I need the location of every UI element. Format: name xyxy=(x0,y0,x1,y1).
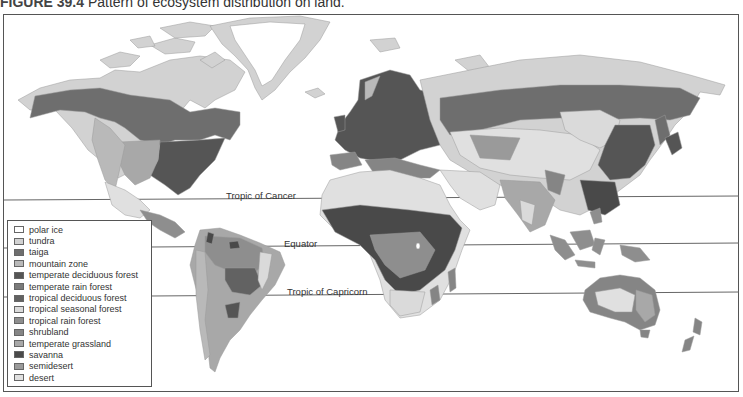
north-america xyxy=(18,22,245,238)
madagascar xyxy=(448,268,456,292)
legend-item: temperate rain forest xyxy=(14,281,151,292)
legend-label: tropical deciduous forest xyxy=(29,293,127,303)
equator-label: Equator xyxy=(284,238,317,249)
legend-item: temperate grassland xyxy=(14,338,151,349)
legend-item: savanna xyxy=(14,349,151,360)
legend-label: savanna xyxy=(29,350,63,360)
iceland xyxy=(305,88,325,98)
legend-item: taiga xyxy=(14,247,151,258)
legend-swatch xyxy=(14,340,24,347)
biome-legend: polar icetundrataigamountain zonetempera… xyxy=(7,220,152,387)
legend-item: tropical deciduous forest xyxy=(14,292,151,303)
south-america xyxy=(190,228,285,372)
tropic-of-cancer-label: Tropic of Cancer xyxy=(226,190,296,201)
legend-swatch xyxy=(14,260,24,267)
legend-swatch xyxy=(14,295,24,302)
legend-swatch xyxy=(14,238,24,245)
legend-swatch xyxy=(14,283,24,290)
legend-item: polar ice xyxy=(14,224,151,235)
legend-label: tropical seasonal forest xyxy=(29,304,122,314)
legend-label: temperate deciduous forest xyxy=(29,270,138,280)
legend-item: mountain zone xyxy=(14,258,151,269)
legend-swatch xyxy=(14,249,24,256)
legend-swatch xyxy=(14,363,24,370)
legend-item: shrubland xyxy=(14,327,151,338)
legend-item: tundra xyxy=(14,235,151,246)
legend-swatch xyxy=(14,306,24,313)
legend-label: taiga xyxy=(29,247,49,257)
legend-item: tropical rain forest xyxy=(14,315,151,326)
legend-swatch xyxy=(14,226,24,233)
legend-swatch xyxy=(14,329,24,336)
legend-label: desert xyxy=(29,373,54,383)
australia xyxy=(583,275,660,338)
legend-label: temperate grassland xyxy=(29,339,111,349)
legend-item: desert xyxy=(14,372,151,383)
legend-label: polar ice xyxy=(29,225,63,235)
legend-label: semidesert xyxy=(29,361,73,371)
legend-item: temperate deciduous forest xyxy=(14,270,151,281)
legend-item: semidesert xyxy=(14,361,151,372)
legend-label: tundra xyxy=(29,236,55,246)
legend-swatch xyxy=(14,272,24,279)
legend-item: tropical seasonal forest xyxy=(14,304,151,315)
legend-swatch xyxy=(14,351,24,358)
tropic-of-capricorn-label: Tropic of Capricorn xyxy=(287,286,367,297)
southeast-asia-islands xyxy=(550,208,650,268)
legend-label: tropical rain forest xyxy=(29,316,101,326)
new-zealand xyxy=(682,318,702,352)
legend-swatch xyxy=(14,374,24,381)
legend-label: shrubland xyxy=(29,327,69,337)
legend-label: mountain zone xyxy=(29,259,88,269)
legend-label: temperate rain forest xyxy=(29,282,112,292)
legend-swatch xyxy=(14,317,24,324)
